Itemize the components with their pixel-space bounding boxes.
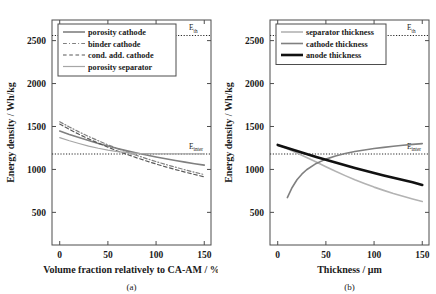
y-tick-label: 500	[250, 208, 265, 218]
series-porosity-cathode	[60, 131, 205, 165]
x-tick-label: 50	[321, 250, 331, 260]
panel-a: 0501001505001000150020002500EthEinterpor…	[0, 0, 218, 294]
y-tick-label: 2500	[27, 36, 46, 46]
series-anode-thickness	[278, 145, 423, 185]
x-tick-label: 50	[103, 250, 113, 260]
annotation-e_th: Eth	[189, 23, 198, 33]
x-tick-label: 0	[275, 250, 280, 260]
legend-label: porosity separator	[88, 63, 153, 72]
legend-label: porosity cathode	[88, 28, 146, 37]
y-tick-label: 500	[32, 208, 47, 218]
panel-caption: (b)	[344, 282, 355, 292]
x-tick-label: 100	[367, 250, 382, 260]
series-separator-thickness	[278, 145, 423, 202]
figure-container: 0501001505001000150020002500EthEinterpor…	[0, 0, 436, 294]
y-tick-label: 1500	[27, 122, 46, 132]
x-tick-label: 100	[149, 250, 164, 260]
y-tick-label: 2500	[245, 36, 264, 46]
legend: porosity cathodebinder cathodecond. add.…	[58, 24, 176, 76]
panel-b: 0501001505001000150020002500EthEintersep…	[218, 0, 436, 294]
y-axis-title: Energy density / Wh/kg	[5, 82, 16, 183]
x-tick-label: 150	[415, 250, 430, 260]
legend-label: cathode thickness	[306, 40, 368, 49]
annotation-e_th: Eth	[407, 23, 416, 33]
legend-label: cond. add. cathode	[88, 51, 154, 60]
y-tick-label: 1500	[245, 122, 264, 132]
chart-b-svg: 0501001505001000150020002500EthEintersep…	[218, 0, 436, 294]
series-binder-cathode	[60, 122, 205, 175]
x-axis-title: Volume fraction relatively to CA-AM / %	[43, 264, 218, 275]
y-tick-label: 1000	[27, 165, 46, 175]
svg-text:inter: inter	[412, 146, 422, 152]
y-tick-label: 2000	[245, 79, 264, 89]
chart-a-svg: 0501001505001000150020002500EthEinterpor…	[0, 0, 218, 294]
annotation-e_inter: Einter	[189, 142, 203, 152]
legend-label: anode thickness	[306, 51, 361, 60]
legend-label: binder cathode	[88, 40, 141, 49]
panel-caption: (a)	[127, 282, 137, 292]
svg-text:th: th	[194, 28, 198, 34]
svg-text:inter: inter	[194, 146, 204, 152]
legend-label: separator thickness	[306, 28, 374, 37]
series-cathode-thickness	[287, 144, 422, 198]
legend: separator thicknesscathode thicknessanod…	[276, 24, 386, 65]
x-tick-label: 150	[197, 250, 212, 260]
y-tick-label: 1000	[245, 165, 264, 175]
x-tick-label: 0	[57, 250, 62, 260]
y-axis-title: Energy density / Wh/kg	[223, 82, 234, 183]
x-axis-title: Thickness / μm	[317, 264, 382, 275]
svg-text:th: th	[412, 28, 416, 34]
y-tick-label: 2000	[27, 79, 46, 89]
